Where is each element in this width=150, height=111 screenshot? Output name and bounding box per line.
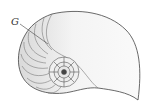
shell-outline: [18, 11, 139, 100]
label-g: G: [11, 17, 19, 27]
nautilus-shell-illustration: [0, 0, 150, 111]
inner-spiral: [49, 57, 79, 87]
nautilus-diagram: G: [0, 0, 150, 111]
